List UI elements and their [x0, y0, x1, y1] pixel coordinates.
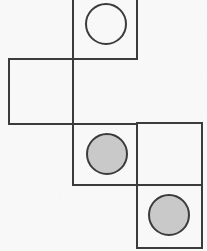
- face-top: [73, 0, 137, 59]
- face-rect-right-upper: [137, 123, 202, 185]
- net-diagram-svg: [0, 0, 207, 251]
- face-rect-left: [9, 59, 73, 124]
- open-circle-icon: [86, 4, 126, 44]
- filled-circle-icon: [87, 134, 127, 174]
- face-right-upper: [137, 123, 202, 185]
- face-left: [9, 59, 73, 124]
- cube-net-figure: [0, 0, 207, 251]
- filled-circle-icon: [149, 195, 189, 235]
- face-right-lower: [137, 185, 202, 248]
- face-center: [73, 124, 137, 185]
